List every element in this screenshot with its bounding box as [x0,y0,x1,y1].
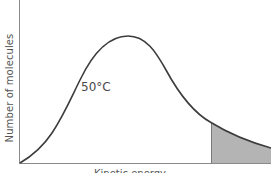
x-axis-label: Kinetic energy [94,168,166,173]
y-axis-label: Number of molecules [4,34,15,143]
energy-distribution-chart [0,0,271,173]
curve-label: 50°C [81,80,111,94]
